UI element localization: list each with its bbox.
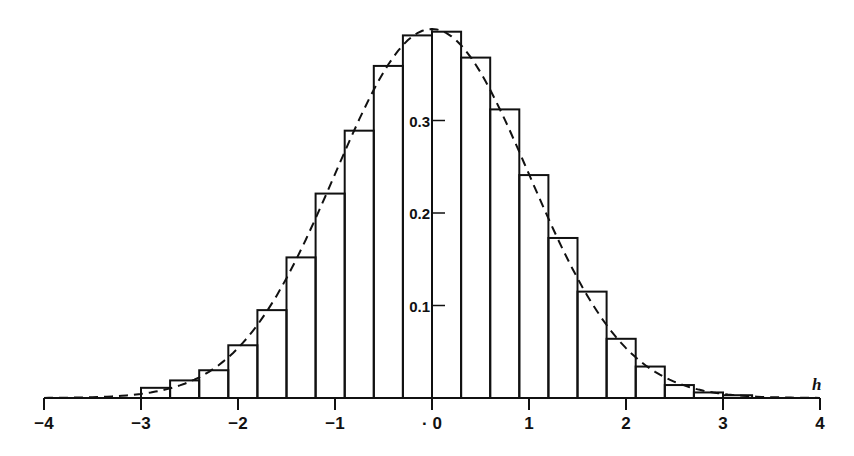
histogram-bar <box>374 66 403 398</box>
histogram-chart: −4−3−2−1· 01234 0.10.20.3 h <box>0 0 854 456</box>
x-axis-label: h <box>812 375 821 394</box>
x-tick-label: 2 <box>621 414 630 433</box>
histogram-bar <box>461 58 490 398</box>
x-tick-label: 1 <box>524 414 533 433</box>
x-tick-label: −4 <box>34 414 54 433</box>
histogram-bar <box>490 109 519 398</box>
x-tick-label: 4 <box>815 414 825 433</box>
y-tick-label: 0.1 <box>409 298 430 315</box>
histogram-bar <box>432 32 461 398</box>
x-axis-ticks: −4−3−2−1· 01234 <box>34 398 825 433</box>
histogram-bar <box>287 257 316 398</box>
x-tick-label: · 0 <box>422 414 442 433</box>
histogram-bar <box>316 194 345 398</box>
histogram-bar <box>519 175 548 398</box>
histogram-bar <box>578 292 607 398</box>
y-axis-ticks: 0.10.20.3 <box>409 113 445 315</box>
histogram-bar <box>345 131 374 398</box>
histogram-bar <box>607 339 636 398</box>
x-tick-label: −3 <box>131 414 150 433</box>
x-tick-label: −1 <box>325 414 344 433</box>
x-tick-label: 3 <box>718 414 727 433</box>
histogram-bar <box>548 238 577 398</box>
histogram-bar <box>257 310 286 398</box>
histogram-bar <box>199 370 228 398</box>
y-tick-label: 0.2 <box>409 205 430 222</box>
histogram-bars <box>141 32 752 398</box>
y-tick-label: 0.3 <box>409 113 430 130</box>
histogram-bar <box>636 367 665 398</box>
x-tick-label: −2 <box>228 414 247 433</box>
